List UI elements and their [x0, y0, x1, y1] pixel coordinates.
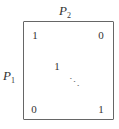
cell-bottom-left: 0	[31, 104, 37, 115]
label-p1-subscript: 1	[11, 76, 15, 85]
label-p2: P2	[59, 4, 71, 22]
diagonal-dots: ⋱	[69, 77, 80, 88]
label-p2-symbol: P	[59, 3, 67, 18]
cell-center: 1	[54, 61, 60, 72]
label-p1-symbol: P	[3, 68, 11, 83]
label-p2-subscript: 2	[67, 11, 71, 20]
cell-bottom-right: 1	[98, 104, 104, 115]
cell-top-left: 1	[32, 30, 38, 41]
label-p1: P1	[3, 69, 15, 87]
cell-top-right: 0	[98, 30, 104, 41]
